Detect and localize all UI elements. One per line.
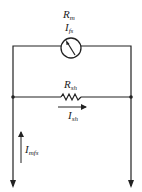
resistor-zigzag-icon xyxy=(61,94,81,100)
ammeter-shunt-circuit: Rm Ifs Rsh Ish Imfs xyxy=(0,0,142,192)
meter-current-label: Ifs xyxy=(64,21,74,35)
total-current-label: Imfs xyxy=(24,143,39,157)
meter-resistance-label: Rm xyxy=(62,8,75,22)
left-terminal-arrow-icon xyxy=(10,180,16,188)
ammeter-icon xyxy=(61,38,81,58)
shunt-current-label: Ish xyxy=(67,109,78,123)
junction-dot-left xyxy=(11,95,15,99)
junction-dot-right xyxy=(129,95,133,99)
shunt-resistance-label: Rsh xyxy=(63,78,77,92)
right-terminal-arrow-icon xyxy=(128,180,134,188)
